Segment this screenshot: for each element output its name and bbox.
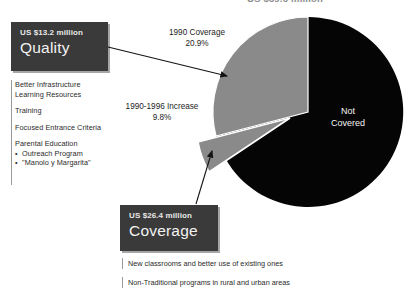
pie-label-1990-coverage: 1990 Coverage 20.9%: [152, 27, 242, 49]
arrow-quality-to-pie: [108, 47, 227, 76]
quality-note-item: Learning Resources: [15, 90, 101, 100]
quality-callout-box[interactable]: US $13.2 million Quality: [11, 22, 108, 71]
pie-label-not-covered: Not Covered: [318, 106, 378, 129]
quality-notes-rule: [11, 80, 12, 185]
parental-bullet: "Manolo y Margarita": [15, 158, 101, 168]
quality-note-group-2: Training: [15, 106, 101, 116]
pie-label-increase-value: 9.8%: [110, 112, 214, 123]
coverage-note-2: Non-Traditional programs in rural and ur…: [122, 278, 290, 287]
pie-label-not-covered-line1: Not: [318, 106, 378, 118]
pie-label-1990-coverage-text: 1990 Coverage: [152, 27, 242, 38]
coverage-callout-box[interactable]: US $26.4 million Coverage: [120, 205, 218, 251]
parental-education-heading: Parental Education: [15, 139, 101, 149]
parental-bullet: Outreach Program: [15, 149, 101, 159]
quality-note-group-3: Focused Entrance Criteria: [15, 123, 101, 133]
quality-note-item: Training: [15, 106, 101, 116]
coverage-amount: US $26.4 million: [129, 211, 218, 221]
pie-label-not-covered-line2: Covered: [318, 118, 378, 130]
pie-label-increase: 1990-1996 Increase 9.8%: [110, 101, 214, 123]
quality-note-group-4: Parental Education Outreach Program "Man…: [15, 139, 101, 168]
quality-note-group-1: Better Infrastructure Learning Resources: [15, 80, 101, 99]
quality-notes-list: Better Infrastructure Learning Resources…: [15, 80, 101, 168]
arrow-coverage-to-pie: [196, 151, 212, 204]
infographic-canvas: US $39.6 million 1990 Coverage 20.9% 199…: [0, 0, 408, 301]
pie-label-increase-text: 1990-1996 Increase: [110, 101, 214, 112]
quality-note-item: Focused Entrance Criteria: [15, 123, 101, 133]
quality-note-item: Better Infrastructure: [15, 80, 101, 90]
quality-amount: US $13.2 million: [20, 28, 108, 38]
coverage-title: Coverage: [129, 221, 218, 240]
coverage-note-1: New classrooms and better use of existin…: [122, 259, 283, 268]
quality-title: Quality: [20, 38, 108, 57]
pie-label-1990-coverage-value: 20.9%: [152, 38, 242, 49]
